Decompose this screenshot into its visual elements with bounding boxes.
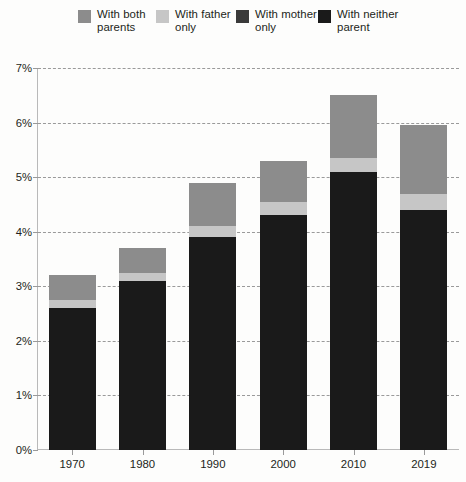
bar-stack-2000 xyxy=(260,161,307,450)
bar-group-1990[interactable] xyxy=(189,68,236,450)
bar-segment-2000-with-neither-parent[interactable] xyxy=(260,215,307,450)
legend-swatch-both-parents xyxy=(78,10,91,23)
legend-item-father-only[interactable]: With father only xyxy=(156,8,236,35)
y-axis-label-6%: 6% xyxy=(0,117,32,129)
bar-segment-2019-with-both-parents[interactable] xyxy=(400,125,447,193)
bar-stack-1980 xyxy=(119,248,166,450)
bar-segment-2000-with-both-parents[interactable] xyxy=(260,161,307,202)
bar-segment-2019-with-neither-parent[interactable] xyxy=(400,210,447,450)
y-axis-label-0%: 0% xyxy=(0,444,32,456)
y-axis-label-7%: 7% xyxy=(0,62,32,74)
y-axis-label-4%: 4% xyxy=(0,226,32,238)
bar-segment-1990-with-neither-parent[interactable] xyxy=(189,237,236,450)
x-tick-1980 xyxy=(143,450,144,455)
bar-group-2019[interactable] xyxy=(400,68,447,450)
legend-item-both-parents[interactable]: With both parents xyxy=(78,8,156,35)
x-tick-2010 xyxy=(354,450,355,455)
legend-item-neither-parent[interactable]: With neither parent xyxy=(318,8,418,35)
x-axis-label-2019: 2019 xyxy=(394,458,454,470)
bar-segment-1980-with-father-only[interactable] xyxy=(119,273,166,281)
bar-segment-2000-with-father-only[interactable] xyxy=(260,202,307,216)
y-axis-label-1%: 1% xyxy=(0,389,32,401)
y-axis-label-5%: 5% xyxy=(0,171,32,183)
bar-segment-1970-with-neither-parent[interactable] xyxy=(49,308,96,450)
legend-item-mother-only[interactable]: With mother only xyxy=(236,8,318,35)
legend-swatch-neither-parent xyxy=(318,10,331,23)
bar-segment-1980-with-both-parents[interactable] xyxy=(119,248,166,273)
x-tick-1970 xyxy=(72,450,73,455)
legend-swatch-father-only xyxy=(156,10,169,23)
x-tick-1990 xyxy=(213,450,214,455)
bar-segment-1970-with-both-parents[interactable] xyxy=(49,275,96,300)
x-axis-label-2000: 2000 xyxy=(253,458,313,470)
bar-stack-2019 xyxy=(400,125,447,450)
legend-label-neither-parent: With neither parent xyxy=(337,8,398,35)
chart-legend: With both parents With father only With … xyxy=(78,8,460,48)
y-axis-label-3%: 3% xyxy=(0,280,32,292)
x-axis-label-1970: 1970 xyxy=(42,458,102,470)
x-axis-label-2010: 2010 xyxy=(324,458,384,470)
bar-segment-2010-with-both-parents[interactable] xyxy=(330,95,377,158)
x-tick-2000 xyxy=(283,450,284,455)
legend-swatch-mother-only xyxy=(236,10,249,23)
bar-segment-2019-with-father-only[interactable] xyxy=(400,194,447,210)
x-axis: 197019801990200020102019 xyxy=(37,450,459,480)
bar-segment-2010-with-father-only[interactable] xyxy=(330,158,377,172)
bar-segment-1990-with-father-only[interactable] xyxy=(189,226,236,237)
bar-group-1980[interactable] xyxy=(119,68,166,450)
x-tick-2019 xyxy=(424,450,425,455)
chart-container: With both parents With father only With … xyxy=(0,0,466,482)
x-axis-label-1980: 1980 xyxy=(113,458,173,470)
bar-group-1970[interactable] xyxy=(49,68,96,450)
bars-layer xyxy=(37,68,459,450)
y-axis-label-2%: 2% xyxy=(0,335,32,347)
bar-stack-1990 xyxy=(189,183,236,450)
bar-group-2010[interactable] xyxy=(330,68,377,450)
legend-label-father-only: With father only xyxy=(175,8,231,35)
bar-segment-1980-with-neither-parent[interactable] xyxy=(119,281,166,450)
x-axis-label-1990: 1990 xyxy=(183,458,243,470)
legend-label-mother-only: With mother only xyxy=(255,8,317,35)
bar-group-2000[interactable] xyxy=(260,68,307,450)
bar-segment-2010-with-neither-parent[interactable] xyxy=(330,172,377,450)
y-axis-labels: 0%1%2%3%4%5%6%7% xyxy=(0,68,32,450)
bar-segment-1990-with-both-parents[interactable] xyxy=(189,183,236,227)
bar-segment-1970-with-father-only[interactable] xyxy=(49,300,96,308)
legend-label-both-parents: With both parents xyxy=(97,8,146,35)
bar-stack-2010 xyxy=(330,95,377,450)
bar-stack-1970 xyxy=(49,275,96,450)
